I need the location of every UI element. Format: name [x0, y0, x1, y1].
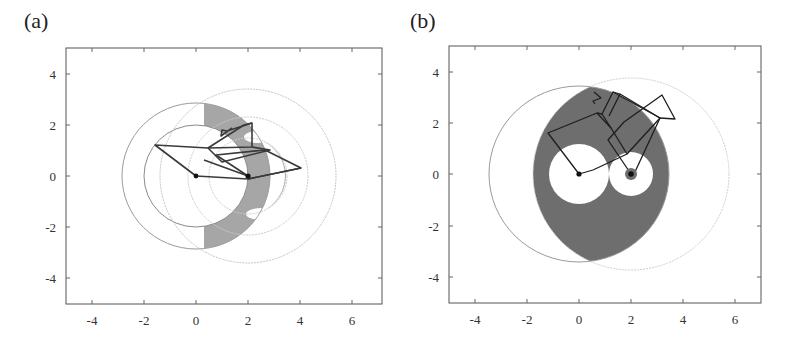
- svg-text:2: 2: [50, 118, 57, 133]
- svg-text:0: 0: [433, 167, 440, 182]
- svg-text:4: 4: [297, 313, 304, 328]
- svg-text:2: 2: [433, 116, 440, 131]
- svg-text:0: 0: [50, 169, 57, 184]
- svg-text:0: 0: [576, 312, 583, 327]
- panel-a-x-tick-labels: -4 -2 0 2 4 6: [87, 313, 356, 328]
- panel-b-x-tick-labels: -4 -2 0 2 4 6: [470, 312, 739, 327]
- svg-text:0: 0: [193, 313, 200, 328]
- panel-b-base-point-2: [628, 171, 634, 177]
- svg-text:-2: -2: [45, 220, 56, 235]
- svg-text:-4: -4: [428, 270, 439, 285]
- panel-a-y-tick-labels: 4 2 0 -2 -4: [45, 67, 56, 286]
- panel-a-base-point-2: [245, 173, 250, 178]
- svg-text:6: 6: [732, 312, 739, 327]
- svg-text:2: 2: [628, 312, 635, 327]
- svg-text:6: 6: [349, 313, 356, 328]
- panel-b-base-point-origin: [576, 171, 581, 176]
- svg-text:-4: -4: [470, 312, 481, 327]
- svg-text:4: 4: [50, 67, 57, 82]
- svg-text:-4: -4: [87, 313, 98, 328]
- svg-text:4: 4: [433, 65, 440, 80]
- panel-a-base-point-origin: [194, 174, 199, 179]
- svg-text:-2: -2: [522, 312, 533, 327]
- svg-text:2: 2: [245, 313, 252, 328]
- panel-b-y-tick-labels: 4 2 0 -2 -4: [428, 65, 439, 285]
- svg-text:4: 4: [680, 312, 687, 327]
- svg-text:-2: -2: [139, 313, 150, 328]
- svg-text:-2: -2: [428, 219, 439, 234]
- svg-text:-4: -4: [45, 271, 56, 286]
